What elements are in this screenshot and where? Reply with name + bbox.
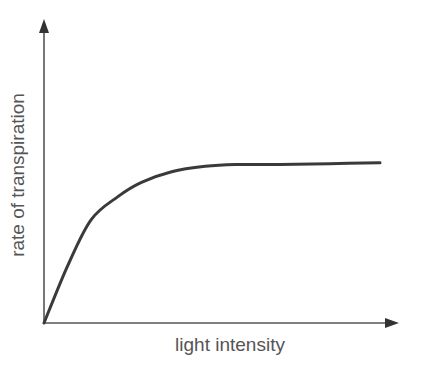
y-axis-arrowhead-icon — [39, 19, 49, 33]
transpiration-curve — [44, 163, 380, 323]
x-axis-arrowhead-icon — [385, 318, 399, 328]
chart-canvas — [0, 0, 422, 373]
x-axis-label: light intensity — [140, 334, 320, 356]
y-axis-label: rate of transpiration — [7, 93, 29, 257]
line-graph: light intensity rate of transpiration — [0, 0, 422, 373]
